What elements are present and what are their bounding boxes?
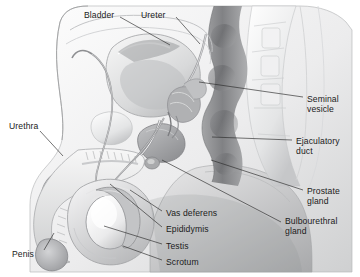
bulbourethral-gland [145, 157, 160, 169]
label-epididymis: Epididymis [166, 224, 209, 234]
anatomy-figure: Bladder Ureter Seminal vesicle Ejaculato… [0, 0, 360, 277]
label-ureter: Ureter [141, 10, 165, 20]
label-scrotum: Scrotum [166, 257, 199, 267]
label-testis: Testis [166, 241, 189, 251]
label-ejaculatory-duct: Ejaculatory duct [296, 136, 340, 157]
label-bladder: Bladder [84, 10, 114, 20]
label-prostate-gland: Prostate gland [307, 186, 340, 207]
label-seminal-vesicle: Seminal vesicle [307, 94, 339, 115]
label-penis: Penis [12, 249, 34, 259]
label-bulbourethral-gland: Bulbourethral gland [285, 216, 337, 237]
label-urethra: Urethra [9, 121, 38, 131]
label-vas-deferens: Vas deferens [166, 208, 217, 218]
